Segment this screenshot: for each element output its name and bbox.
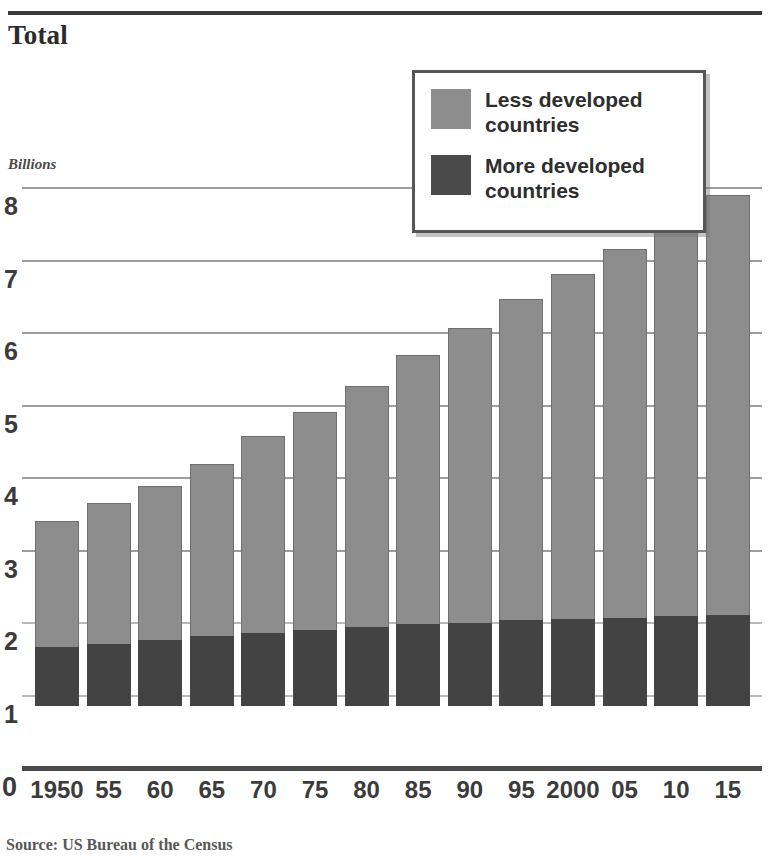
bar-segment-more-developed-15 bbox=[706, 615, 750, 706]
bar-90 bbox=[448, 328, 492, 706]
bar-segment-more-developed-80 bbox=[345, 627, 389, 706]
gridline-4 bbox=[22, 477, 762, 479]
bar-segment-more-developed-60 bbox=[138, 640, 182, 706]
bar-05 bbox=[603, 249, 647, 706]
bar-70 bbox=[241, 436, 285, 706]
bar-55 bbox=[87, 503, 131, 706]
x-axis-tick-15: 15 bbox=[697, 776, 759, 804]
bar-segment-more-developed-75 bbox=[293, 630, 337, 706]
bar-segment-more-developed-10 bbox=[654, 616, 698, 706]
bar-95 bbox=[499, 299, 543, 706]
legend-item-more-developed: More developed countries bbox=[431, 153, 703, 203]
gridline-2 bbox=[22, 622, 762, 624]
legend-label-less-developed: Less developed countries bbox=[485, 87, 703, 137]
bar-segment-more-developed-05 bbox=[603, 618, 647, 706]
legend-swatch-less-developed bbox=[431, 89, 471, 129]
legend-label-more-developed: More developed countries bbox=[485, 153, 703, 203]
y-axis-tick-8: 8 bbox=[4, 192, 28, 221]
y-axis-tick-4: 4 bbox=[4, 482, 28, 511]
bar-80 bbox=[345, 386, 389, 706]
x-axis-line bbox=[22, 766, 762, 771]
bar-segment-more-developed-55 bbox=[87, 644, 131, 706]
bar-75 bbox=[293, 412, 337, 706]
y-axis-tick-3: 3 bbox=[4, 555, 28, 584]
bar-segment-more-developed-90 bbox=[448, 623, 492, 706]
bar-15 bbox=[706, 195, 750, 706]
gridline-3 bbox=[22, 550, 762, 552]
bar-segment-more-developed-85 bbox=[396, 624, 440, 706]
bar-2000 bbox=[551, 274, 595, 706]
source-note: Source: US Bureau of the Census bbox=[6, 836, 233, 854]
legend-swatch-more-developed bbox=[431, 155, 471, 195]
legend-item-less-developed: Less developed countries bbox=[431, 87, 703, 137]
bar-segment-more-developed-65 bbox=[190, 636, 234, 706]
bar-segment-more-developed-95 bbox=[499, 620, 543, 706]
gridline-6 bbox=[22, 332, 762, 334]
bar-85 bbox=[396, 355, 440, 706]
gridline-5 bbox=[22, 405, 762, 407]
bar-60 bbox=[138, 486, 182, 706]
bar-segment-more-developed-70 bbox=[241, 633, 285, 706]
y-axis-tick-5: 5 bbox=[4, 410, 28, 439]
bar-1950 bbox=[35, 521, 79, 706]
chart-legend: Less developed countries More developed … bbox=[412, 70, 706, 233]
y-axis-tick-1: 1 bbox=[4, 700, 28, 729]
gridline-7 bbox=[22, 260, 762, 262]
y-axis-zero-label: 0 bbox=[2, 772, 17, 803]
gridline-1 bbox=[22, 695, 762, 697]
y-axis-tick-7: 7 bbox=[4, 265, 28, 294]
y-axis-tick-6: 6 bbox=[4, 337, 28, 366]
y-axis-tick-2: 2 bbox=[4, 627, 28, 656]
bar-segment-more-developed-1950 bbox=[35, 647, 79, 706]
bar-segment-more-developed-2000 bbox=[551, 619, 595, 706]
bar-65 bbox=[190, 464, 234, 706]
bar-10 bbox=[654, 220, 698, 706]
